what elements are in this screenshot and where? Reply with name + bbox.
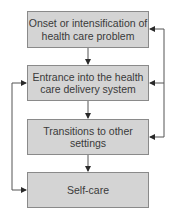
node-transitions-label: Transitions to other settings [28, 125, 148, 150]
node-onset: Onset or intensification of health care … [27, 11, 149, 48]
node-transitions: Transitions to other settings [27, 119, 149, 155]
node-onset-label: Onset or intensification of health care … [28, 17, 148, 42]
node-self-care-label: Self-care [67, 184, 109, 197]
node-entrance-label: Entrance into the health care delivery s… [28, 71, 148, 96]
node-self-care: Self-care [27, 172, 149, 208]
node-entrance: Entrance into the health care delivery s… [27, 65, 149, 101]
